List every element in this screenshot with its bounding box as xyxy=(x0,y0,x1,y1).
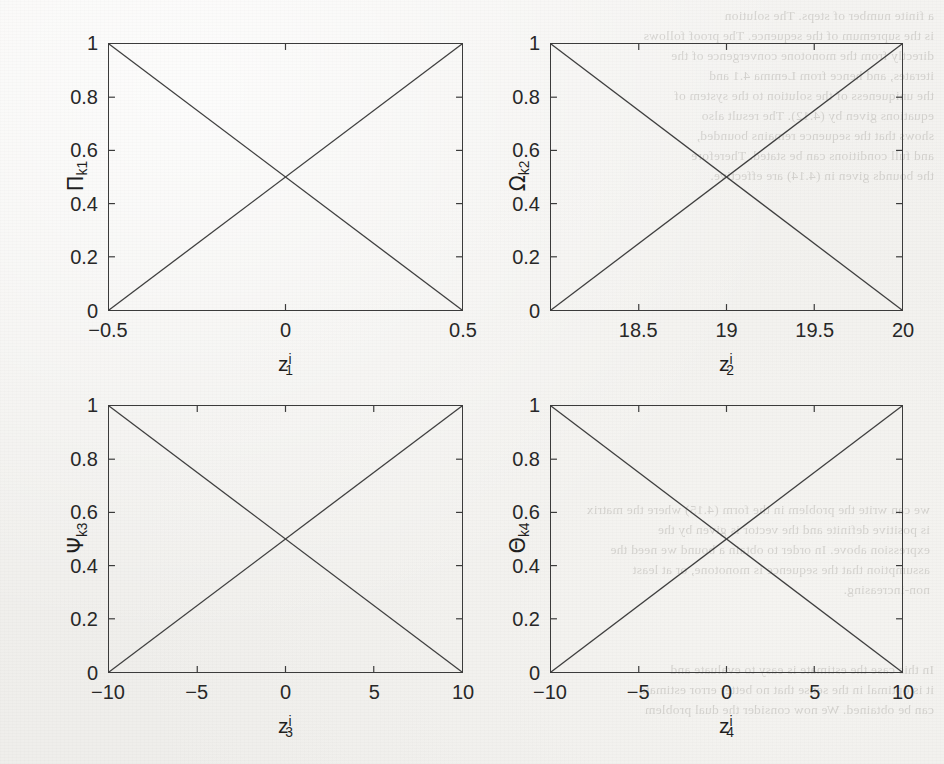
y-tick-label: 0 xyxy=(87,663,98,683)
y-tick-label: 0 xyxy=(529,663,540,683)
x-tick-label: 18.5 xyxy=(619,320,658,340)
x-tick-label: 19.5 xyxy=(795,320,834,340)
y-tick-label: 1 xyxy=(529,33,540,53)
y-tick-label: 0 xyxy=(87,301,98,321)
y-axis-label: Θk4 xyxy=(458,527,578,549)
y-tick-label: 1 xyxy=(529,395,540,415)
y-tick-label: 0.8 xyxy=(70,449,98,469)
x-tick-label: 0.5 xyxy=(449,320,477,340)
plot-panel-3: −10−5051000.20.40.60.81zi3Ψk3 xyxy=(108,405,463,673)
x-tick-label: 19 xyxy=(715,320,737,340)
x-tick-label: −5 xyxy=(185,682,208,702)
y-tick-label: 1 xyxy=(87,395,98,415)
x-tick-label: −10 xyxy=(91,682,125,702)
x-tick-label: 5 xyxy=(809,682,820,702)
y-tick-label: 0.8 xyxy=(512,87,540,107)
x-tick-label: 20 xyxy=(892,320,914,340)
x-tick-label: −10 xyxy=(533,682,567,702)
y-tick-label: 0.2 xyxy=(70,247,98,267)
plot-panel-4: −10−5051000.20.40.60.81zi4Θk4 xyxy=(550,405,903,673)
y-tick-label: 0.2 xyxy=(70,609,98,629)
y-axis-label: Πk1 xyxy=(16,165,136,187)
x-axis-label: zi2 xyxy=(719,353,734,374)
plot-axes-1 xyxy=(108,43,463,311)
x-tick-label: 0 xyxy=(721,682,732,702)
y-tick-label: 0.8 xyxy=(70,87,98,107)
y-axis-label: Ψk3 xyxy=(16,527,136,549)
plot-axes-2 xyxy=(550,43,903,311)
x-tick-label: 10 xyxy=(892,682,914,702)
y-tick-label: 0.8 xyxy=(512,449,540,469)
x-axis-label: zi4 xyxy=(719,715,734,736)
x-tick-label: 0 xyxy=(280,682,291,702)
x-tick-label: −0.5 xyxy=(88,320,127,340)
plot-panel-2: 18.51919.52000.20.40.60.81zi2Ωk2 xyxy=(550,43,903,311)
x-tick-label: −5 xyxy=(627,682,650,702)
x-tick-label: 0 xyxy=(280,320,291,340)
plot-axes-3 xyxy=(108,405,463,673)
y-tick-label: 0 xyxy=(529,301,540,321)
x-axis-label: zi3 xyxy=(278,715,293,736)
y-tick-label: 1 xyxy=(87,33,98,53)
x-axis-label: zi1 xyxy=(278,353,293,374)
x-tick-label: 10 xyxy=(452,682,474,702)
y-tick-label: 0.2 xyxy=(512,247,540,267)
x-tick-label: 5 xyxy=(369,682,380,702)
plot-axes-4 xyxy=(550,405,903,673)
y-tick-label: 0.2 xyxy=(512,609,540,629)
plot-panel-1: −0.500.500.20.40.60.81zi1Πk1 xyxy=(108,43,463,311)
y-axis-label: Ωk2 xyxy=(458,165,578,187)
figure-four-panel-plot: −0.500.500.20.40.60.81zi1Πk118.51919.520… xyxy=(0,0,944,764)
